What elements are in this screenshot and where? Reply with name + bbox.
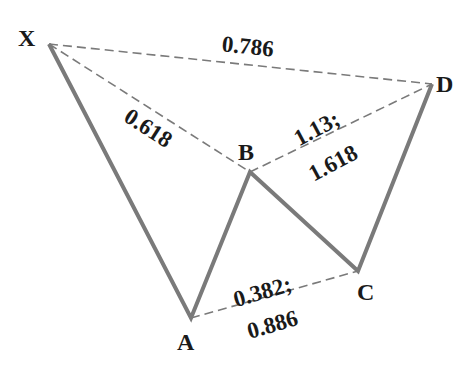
point-label-d: D	[436, 71, 453, 97]
point-label-c: C	[357, 279, 374, 305]
xb-dashed-line	[49, 44, 250, 172]
point-label-x: X	[18, 25, 36, 51]
point-label-b: B	[238, 139, 254, 165]
ratio-xb: 0.618	[120, 104, 177, 153]
harmonic-pattern-diagram: X A B C D 0.786 0.618 1.13; 1.618 0.382;…	[0, 0, 476, 373]
ratio-xd: 0.786	[221, 31, 275, 61]
ratio-ac-1: 0.382;	[230, 272, 294, 312]
pattern-legs	[49, 44, 432, 318]
point-label-a: A	[177, 329, 195, 355]
ratio-bd-1: 1.13;	[290, 106, 344, 151]
ratio-ac-2: 0.886	[244, 305, 301, 343]
ratio-bd-2: 1.618	[304, 140, 361, 186]
